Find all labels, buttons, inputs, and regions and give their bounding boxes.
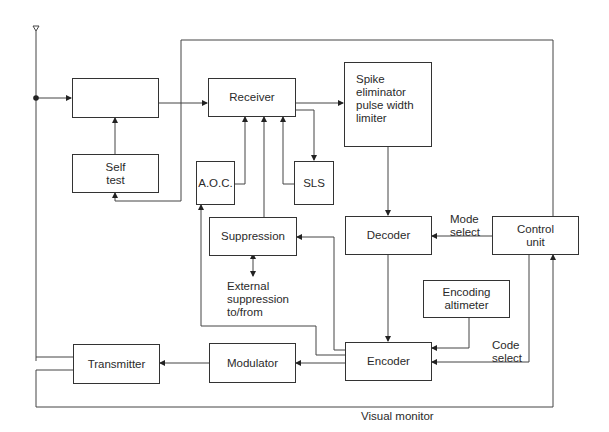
suppression-label: Suppression — [221, 230, 285, 243]
encoder-label: Encoder — [367, 355, 410, 368]
modulator-label: Modulator — [227, 357, 278, 370]
code-select-label: Code select — [492, 339, 522, 365]
external-suppression-label: External suppression to/from — [227, 280, 289, 319]
aoc-label: A.O.C. — [198, 177, 233, 190]
sls-block: SLS — [294, 161, 334, 205]
transmitter-label: Transmitter — [88, 358, 146, 371]
antenna-icon — [33, 26, 39, 31]
spike-eliminator-label: Spike eliminator pulse width limiter — [356, 73, 414, 125]
encoder-block: Encoder — [345, 342, 432, 381]
receiver-block: Receiver — [208, 78, 296, 117]
self-test-label: Self test — [106, 161, 126, 187]
filter-block — [72, 78, 159, 118]
visual-monitor-label: Visual monitor — [361, 410, 434, 423]
sls-label: SLS — [303, 177, 325, 190]
decoder-block: Decoder — [345, 216, 432, 255]
control-unit-block: Control unit — [492, 216, 579, 255]
spike-eliminator-block: Spike eliminator pulse width limiter — [344, 62, 432, 147]
mode-select-label: Mode select — [450, 213, 480, 239]
junction-dot — [33, 95, 39, 101]
self-test-block: Self test — [72, 154, 159, 193]
transmitter-block: Transmitter — [73, 344, 160, 384]
decoder-label: Decoder — [367, 229, 410, 242]
aoc-block: A.O.C. — [196, 161, 235, 205]
encoding-altimeter-label: Encoding altimeter — [443, 286, 491, 312]
suppression-block: Suppression — [209, 217, 297, 256]
control-unit-label: Control unit — [517, 223, 554, 249]
receiver-label: Receiver — [229, 91, 274, 104]
encoding-altimeter-block: Encoding altimeter — [423, 280, 510, 318]
modulator-block: Modulator — [209, 343, 296, 383]
